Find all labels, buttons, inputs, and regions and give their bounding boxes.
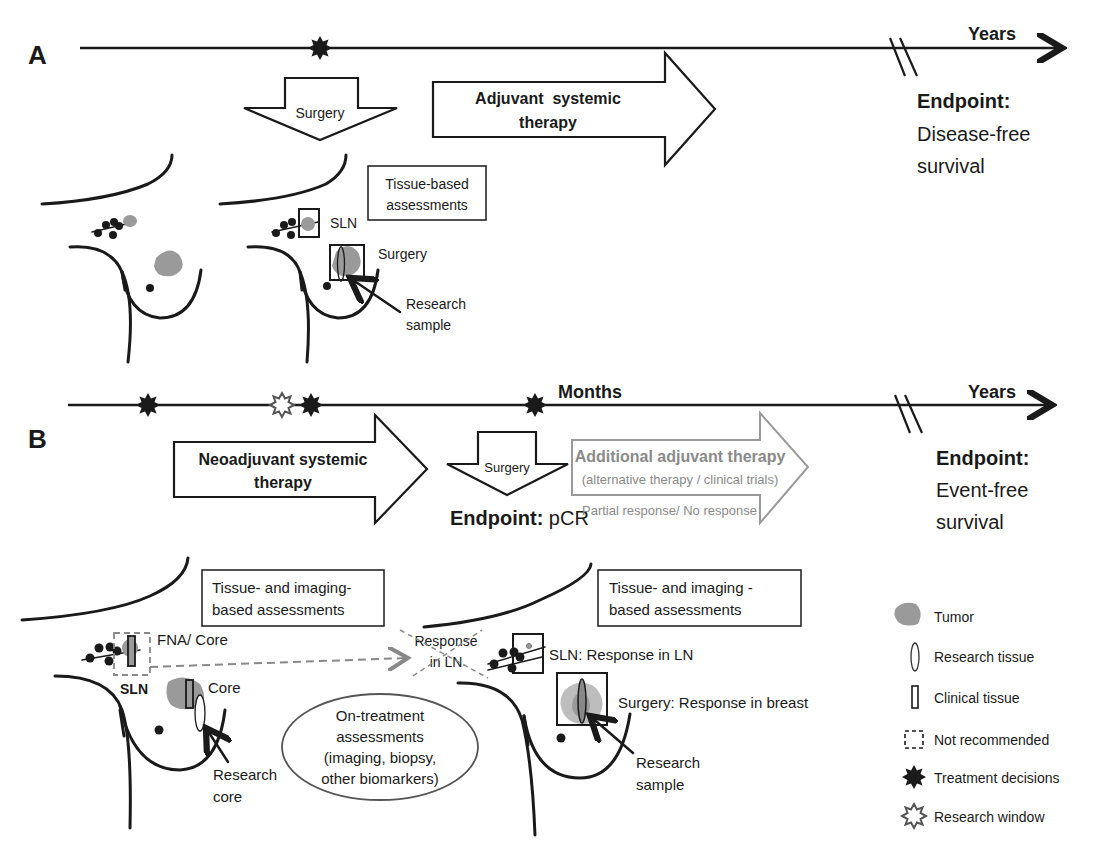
panel-a-adjuvant-arrow xyxy=(433,53,715,165)
panel-b-neoadjuvant-line2: therapy xyxy=(254,474,312,491)
panel-b-post-assessment-line2: based assessments xyxy=(609,601,742,618)
crossed-response-line1: Response xyxy=(414,633,477,649)
panel-a-adjuvant-line2: therapy xyxy=(519,114,577,131)
panel-a-endpoint-label: Endpoint: xyxy=(917,90,1010,112)
panel-b-timeline-months: Months xyxy=(558,382,622,402)
legend-label-treatment-decisions: Treatment decisions xyxy=(934,770,1060,786)
on-treatment-line1: On-treatment xyxy=(336,707,425,724)
legend-label-tumor: Tumor xyxy=(934,609,974,625)
on-treatment-line4: other biomarkers) xyxy=(321,770,439,787)
treatment-decision-star-icon xyxy=(902,765,926,789)
panel-b-core-label: Core xyxy=(208,679,241,696)
panel-b-additional-title: Additional adjuvant therapy xyxy=(575,448,786,465)
panel-b-research-sample-1: Research xyxy=(636,754,700,771)
panel-a-label: A xyxy=(28,40,47,70)
panel-b-research-core-1: Research xyxy=(213,766,277,783)
panel-b-endpoint-value-2: survival xyxy=(936,511,1004,533)
panel-a-surgery-label: Surgery xyxy=(378,246,427,262)
panel-a-adjuvant-line1: Adjuvant systemic xyxy=(475,90,621,107)
panel-a-anatomy-pre xyxy=(42,155,201,362)
panel-b-neoadjuvant-line1: Neoadjuvant systemic xyxy=(199,451,368,468)
panel-a-timeline-unit: Years xyxy=(968,24,1016,44)
research-window-star-icon xyxy=(270,393,294,417)
panel-a-timeline xyxy=(80,36,1062,76)
panel-b-sln-response: SLN: Response in LN xyxy=(549,646,693,663)
panel-b-research-sample-2: sample xyxy=(636,776,684,793)
legend-label-research-window: Research window xyxy=(934,809,1045,825)
panel-b-sln-label: SLN xyxy=(120,681,148,697)
treatment-decision-star-icon xyxy=(299,393,323,417)
panel-b-research-core-2: core xyxy=(213,788,242,805)
panel-a-endpoint-value-2: survival xyxy=(917,155,985,177)
panel-b-partial-response: Partial response/ No response xyxy=(582,503,757,518)
panel-a-assessment-line1: Tissue-based xyxy=(385,176,469,192)
panel-b-endpoint-pcr-label: Endpoint: xyxy=(450,507,543,529)
panel-b-fna-core: FNA/ Core xyxy=(157,631,228,648)
legend-label-not-recommended: Not recommended xyxy=(934,732,1049,748)
clinical-tissue-icon xyxy=(912,686,918,708)
not-recommended-icon xyxy=(905,731,923,748)
treatment-decision-star-icon xyxy=(136,393,160,417)
panel-b-endpoint-pcr: Endpoint: pCR xyxy=(450,507,589,529)
panel-b-endpoint-value-1: Event-free xyxy=(936,479,1028,501)
figure-canvas: A Years Surgery Adjuvant systemic therap… xyxy=(0,0,1099,842)
panel-b-post-assessment-line1: Tissue- and imaging - xyxy=(609,579,753,596)
panel-a-research-sample-1: Research xyxy=(406,296,466,312)
panel-b-pre-assessment-line2: based assessments xyxy=(212,601,345,618)
treatment-decision-star-icon xyxy=(523,393,547,417)
panel-b-additional-sub: (alternative therapy / clinical trials) xyxy=(582,472,779,487)
legend-label-clinical-tissue: Clinical tissue xyxy=(934,690,1020,706)
panel-b-surgery-response: Surgery: Response in breast xyxy=(618,694,809,711)
on-treatment-line3: (imaging, biopsy, xyxy=(324,749,436,766)
dashed-arrow-sln-response xyxy=(150,658,408,667)
panel-b-pre-assessment-line1: Tissue- and imaging- xyxy=(212,579,352,596)
panel-a-endpoint-value-1: Disease-free xyxy=(917,123,1030,145)
panel-b-endpoint-label: Endpoint: xyxy=(936,447,1029,469)
legend: Tumor Research tissue Clinical tissue No… xyxy=(894,603,1059,828)
research-tissue-icon xyxy=(911,643,919,671)
panel-a-assessment-line2: assessments xyxy=(386,197,468,213)
tumor-icon xyxy=(154,250,183,276)
tumor-icon xyxy=(894,603,920,626)
panel-b-timeline-years: Years xyxy=(968,382,1016,402)
panel-b-neoadjuvant-arrow xyxy=(174,415,427,523)
panel-b-surgery-arrow-label: Surgery xyxy=(484,460,530,475)
panel-a-sln-label: SLN xyxy=(330,215,357,231)
legend-label-research-tissue: Research tissue xyxy=(934,649,1035,665)
panel-a-research-sample-2: sample xyxy=(406,317,451,333)
panel-a-surgery-arrow-label: Surgery xyxy=(295,105,344,121)
treatment-decision-star-icon xyxy=(308,36,332,60)
research-window-star-icon xyxy=(902,804,926,828)
panel-b-label: B xyxy=(28,424,47,454)
on-treatment-line2: assessments xyxy=(336,728,424,745)
